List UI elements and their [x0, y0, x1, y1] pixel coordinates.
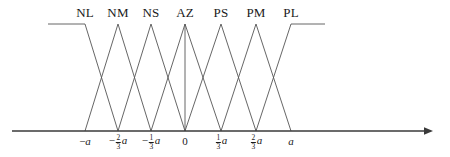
term-label-az: AZ: [176, 5, 194, 21]
tick-fraction-two-thirds: 23: [115, 134, 121, 151]
membership-curve-pm: [221, 24, 291, 131]
fraction-denominator: 3: [115, 143, 121, 151]
tick-label-neg-two-thirds-a: −23a: [109, 134, 127, 151]
term-label-ns: NS: [142, 5, 159, 21]
tick-text-zero: 0: [182, 135, 188, 147]
x-axis-arrow-icon: [424, 127, 433, 135]
tick-suffix-pos-a: a: [288, 135, 294, 147]
tick-suffix-neg-a: a: [85, 135, 91, 147]
term-label-pl: PL: [283, 5, 299, 21]
membership-curve-az: [151, 24, 221, 131]
term-label-nm: NM: [107, 5, 128, 21]
term-label-pm: PM: [246, 5, 265, 21]
tick-label-neg-one-third-a: −13a: [142, 134, 160, 151]
tick-label-neg-a: −a: [79, 135, 91, 147]
membership-curve-nl: [48, 24, 118, 131]
fuzzy-membership-figure: NL NM NS AZ PS PM PL −a −23a −13a 0 13a …: [0, 0, 450, 157]
membership-curve-nm: [85, 24, 151, 131]
fraction-denominator: 3: [148, 143, 154, 151]
tick-label-zero: 0: [182, 135, 188, 147]
tick-label-pos-two-thirds-a: 23a: [250, 134, 262, 151]
tick-suffix-neg-two-thirds: a: [122, 134, 128, 146]
fraction-denominator: 3: [215, 143, 221, 151]
tick-suffix-neg-one-third: a: [155, 134, 161, 146]
tick-suffix-pos-two-thirds: a: [257, 134, 263, 146]
tick-label-pos-one-third-a: 13a: [215, 134, 227, 151]
tick-sign-neg-one-third: −: [142, 134, 148, 146]
term-label-nl: NL: [76, 5, 94, 21]
tick-fraction-one-third-neg: 13: [148, 134, 154, 151]
tick-sign-neg-two-thirds: −: [109, 134, 115, 146]
tick-fraction-two-thirds-pos: 23: [250, 134, 256, 151]
membership-curve-ps: [185, 24, 256, 131]
term-label-ps: PS: [214, 5, 229, 21]
membership-curve-ns: [118, 24, 185, 131]
tick-suffix-pos-one-third: a: [222, 134, 228, 146]
fraction-denominator: 3: [250, 143, 256, 151]
tick-fraction-one-third-pos: 13: [215, 134, 221, 151]
membership-curve-pl: [256, 24, 325, 131]
tick-label-pos-a: a: [288, 135, 294, 147]
